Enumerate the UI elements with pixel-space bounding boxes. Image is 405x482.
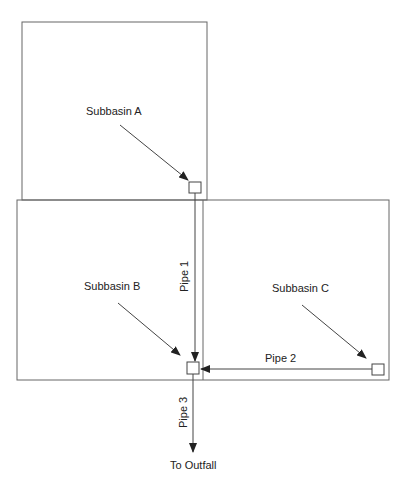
subbasin-c-label: Subbasin C xyxy=(272,282,329,294)
subbasin-a-label: Subbasin A xyxy=(86,105,142,117)
subbasin-a-arrow xyxy=(120,125,188,180)
pipe-3-label: Pipe 3 xyxy=(177,397,189,428)
subbasin-b-label: Subbasin B xyxy=(84,280,140,292)
node-a xyxy=(189,182,201,193)
outfall-label: To Outfall xyxy=(170,459,216,471)
pipe-2-label: Pipe 2 xyxy=(265,352,296,364)
node-c xyxy=(372,364,384,375)
drainage-diagram: Subbasin A Subbasin B Subbasin C Pipe 1 … xyxy=(0,0,405,482)
node-b xyxy=(187,362,199,374)
subbasin-b-arrow xyxy=(118,303,180,355)
subbasin-c-arrow xyxy=(302,305,366,358)
pipe-1-label: Pipe 1 xyxy=(178,261,190,292)
